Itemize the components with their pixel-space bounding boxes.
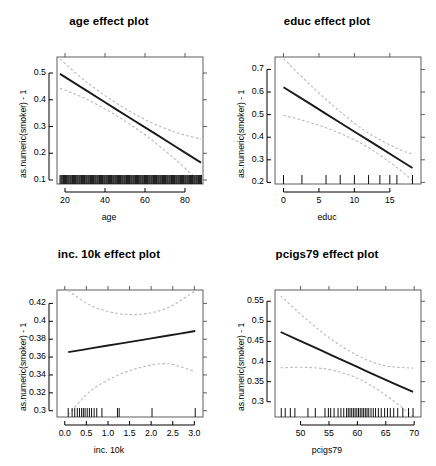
x-tick-label: 20 bbox=[45, 195, 85, 205]
x-tick-label: 40 bbox=[85, 195, 125, 205]
effect-plot-grid: age effect plot0.10.20.30.40.520406080ag… bbox=[0, 0, 436, 466]
y-axis bbox=[49, 303, 207, 410]
y-tick-label: 0.3 bbox=[252, 396, 264, 406]
confidence-band-line bbox=[60, 88, 201, 183]
fit-line bbox=[284, 87, 413, 168]
y-axis-label: as.numeric(smoker) - 1 bbox=[18, 90, 28, 178]
y-tick-label: 0.6 bbox=[252, 86, 264, 96]
y-tick-label: 0.38 bbox=[29, 333, 46, 343]
y-axis-label: as.numeric(smoker) - 1 bbox=[236, 90, 246, 178]
y-tick-label: 0.4 bbox=[34, 315, 46, 325]
y-tick-label: 0.4 bbox=[252, 356, 264, 366]
confidence-band-line bbox=[60, 59, 201, 139]
x-axis bbox=[65, 53, 185, 192]
y-tick-label: 0.5 bbox=[252, 315, 264, 325]
y-tick-label: 0.34 bbox=[29, 369, 46, 379]
x-tick-label: 15 bbox=[370, 195, 410, 205]
y-tick-label: 0.42 bbox=[29, 297, 46, 307]
rug-marks bbox=[60, 175, 201, 184]
y-tick-label: 0.4 bbox=[252, 131, 264, 141]
x-tick-label: 3.0 bbox=[174, 428, 214, 438]
confidence-band-line bbox=[284, 59, 413, 155]
y-tick-label: 0.36 bbox=[29, 351, 46, 361]
y-tick-label: 0.5 bbox=[252, 109, 264, 119]
confidence-band-line bbox=[68, 364, 195, 415]
y-tick-label: 0.4 bbox=[34, 94, 46, 104]
confidence-band-line bbox=[284, 115, 413, 180]
rug-marks bbox=[281, 408, 413, 417]
effect-panel-educ: educ effect plot0.20.30.40.50.60.7051015… bbox=[218, 0, 436, 233]
y-tick-label: 0.45 bbox=[247, 335, 264, 345]
y-tick-label: 0.35 bbox=[247, 376, 264, 386]
effect-panel-age: age effect plot0.10.20.30.40.520406080ag… bbox=[0, 0, 218, 233]
rug-marks bbox=[68, 408, 195, 417]
y-tick-label: 0.3 bbox=[252, 154, 264, 164]
x-axis-label: age bbox=[0, 212, 218, 222]
x-axis bbox=[65, 286, 195, 425]
y-tick-label: 0.55 bbox=[247, 295, 264, 305]
rug-marks bbox=[284, 175, 413, 184]
x-axis-label: inc. 10k bbox=[0, 445, 218, 455]
y-tick-label: 0.2 bbox=[252, 176, 264, 186]
fit-line bbox=[281, 332, 413, 392]
y-tick-label: 0.5 bbox=[34, 67, 46, 77]
y-tick-label: 0.32 bbox=[29, 387, 46, 397]
x-tick-label: 70 bbox=[394, 428, 434, 438]
plot-box bbox=[57, 290, 203, 417]
x-tick-label: 10 bbox=[334, 195, 374, 205]
plot-box bbox=[275, 57, 421, 184]
y-tick-label: 0.3 bbox=[34, 121, 46, 131]
x-tick-label: 60 bbox=[125, 195, 165, 205]
x-tick-label: 0 bbox=[264, 195, 304, 205]
effect-panel-inc-10k: inc. 10k effect plot0.30.320.340.360.380… bbox=[0, 233, 218, 466]
confidence-band-line bbox=[68, 290, 195, 314]
y-tick-label: 0.1 bbox=[34, 174, 46, 184]
y-tick-label: 0.7 bbox=[252, 63, 264, 73]
x-tick-label: 5 bbox=[299, 195, 339, 205]
confidence-band-line bbox=[281, 296, 413, 368]
y-axis bbox=[49, 73, 207, 180]
x-axis bbox=[284, 53, 390, 192]
fit-line bbox=[68, 331, 195, 352]
x-axis-label: educ bbox=[218, 212, 436, 222]
y-axis-label: as.numeric(smoker) - 1 bbox=[18, 323, 28, 411]
y-tick-label: 0.3 bbox=[34, 405, 46, 415]
plot-box bbox=[275, 290, 421, 417]
y-axis-label: as.numeric(smoker) - 1 bbox=[236, 323, 246, 411]
effect-panel-pcigs79: pcigs79 effect plot0.30.350.40.450.50.55… bbox=[218, 233, 436, 466]
fit-line bbox=[60, 74, 201, 163]
x-axis-label: pcigs79 bbox=[218, 445, 436, 455]
y-tick-label: 0.2 bbox=[34, 147, 46, 157]
x-tick-label: 80 bbox=[165, 195, 205, 205]
